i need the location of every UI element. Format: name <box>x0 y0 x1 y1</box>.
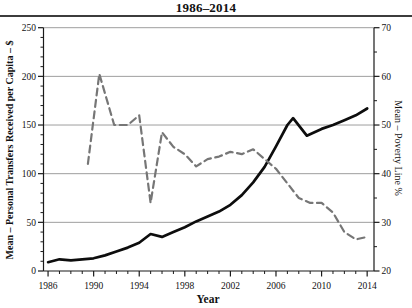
poverty-line-percent-line <box>88 74 367 240</box>
x-tick-label: 2014 <box>358 281 377 291</box>
y-left-tick-label: 200 <box>22 72 37 82</box>
x-ticks: 19861990199419982002200620102014 <box>39 271 377 291</box>
y-left-tick-label: 50 <box>27 218 37 228</box>
title-divider <box>0 15 412 17</box>
axes <box>44 28 375 271</box>
left-axis-label: Mean – Personal Transfers Received per C… <box>4 41 15 260</box>
x-axis-label: Year <box>197 293 220 305</box>
figure: 1986–2014 050100150200250203040506070198… <box>0 0 412 308</box>
y-left-tick-label: 0 <box>31 266 36 276</box>
x-tick-label: 1994 <box>130 281 149 291</box>
personal-transfers-received-per-capita-line <box>48 109 367 263</box>
y-right-tick-label: 20 <box>382 266 392 276</box>
x-tick-label: 2010 <box>312 281 331 291</box>
chart-title: 1986–2014 <box>0 0 412 16</box>
chart-canvas: 0501001502002502030405060701986199019941… <box>0 0 412 308</box>
right-axis-label: Mean – Poverty Line % <box>393 100 404 196</box>
y-left-tick-label: 100 <box>22 169 37 179</box>
y-right-tick-label: 60 <box>382 72 392 82</box>
x-tick-label: 1990 <box>84 281 103 291</box>
x-tick-label: 2002 <box>221 281 240 291</box>
x-tick-label: 2006 <box>266 281 285 291</box>
y-right-tick-label: 50 <box>382 120 392 130</box>
y-left-ticks: 050100150200250 <box>22 23 44 276</box>
y-right-tick-label: 40 <box>382 169 392 179</box>
y-left-tick-label: 150 <box>22 120 37 130</box>
y-left-tick-label: 250 <box>22 23 37 33</box>
y-right-tick-label: 30 <box>382 218 392 228</box>
y-right-tick-label: 70 <box>382 23 392 33</box>
x-tick-label: 1986 <box>39 281 58 291</box>
y-right-ticks: 203040506070 <box>374 23 391 276</box>
x-tick-label: 1998 <box>175 281 194 291</box>
